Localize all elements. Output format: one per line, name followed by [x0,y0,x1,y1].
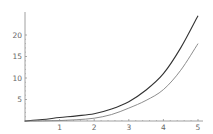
x-tick-label: 4 [161,123,166,132]
plot-series [25,16,198,121]
y-tick-label: 20 [12,31,22,40]
x-tick-label: 1 [57,123,62,132]
x-tick-label: 2 [92,123,97,132]
y-tick-label: 5 [17,95,22,104]
y-axis: 5101520 [12,12,27,122]
y-tick-label: 10 [12,74,22,83]
x-tick-label: 3 [126,123,131,132]
upper-curve-line [25,16,198,121]
y-tick-label: 15 [12,52,22,61]
line-chart: 5101520 12345 [0,0,213,134]
x-tick-label: 5 [196,123,201,132]
